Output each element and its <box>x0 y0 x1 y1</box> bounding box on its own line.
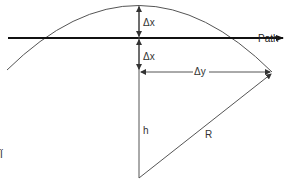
delta-x-upper-label: Δx <box>143 17 155 28</box>
radius-line <box>139 74 271 178</box>
delta-y-label: Δy <box>194 66 206 77</box>
path-label: Path <box>258 33 279 44</box>
delta-x-lower-label: Δx <box>143 51 155 62</box>
height-label: h <box>143 125 149 136</box>
geometry-diagram: Path Δx Δx Δy R h Ϊ <box>0 0 289 180</box>
radius-label: R <box>205 129 212 140</box>
stray-mark: Ϊ <box>0 149 3 160</box>
